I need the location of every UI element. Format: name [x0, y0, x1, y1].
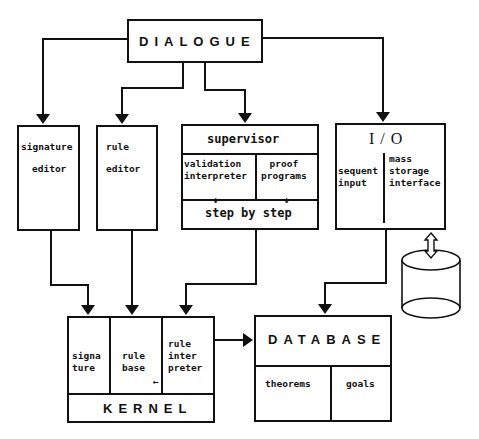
- rule-editor-line1: rule: [106, 141, 129, 153]
- edge-supervisor-kernel: [186, 229, 256, 306]
- kernel-rule-interpreter-label: rule inter preter: [168, 338, 202, 374]
- kernel-box: signa ture rule base rule inter preter ←…: [67, 316, 215, 423]
- arrowhead-icon: [243, 333, 253, 347]
- edge-dialogue-rule-editor: [122, 62, 183, 115]
- arrowhead-icon: [376, 112, 390, 122]
- kernel-signature-label: signa ture: [72, 350, 101, 374]
- arrowhead-icon: [238, 113, 252, 123]
- signature-editor-line1: signature: [21, 141, 72, 153]
- io-title: I / O: [369, 130, 403, 148]
- mass-storage-interface-label: mass storage interface: [389, 153, 440, 189]
- kernel-divider-2: [161, 318, 163, 393]
- proof-programs-label: proof programs: [261, 158, 307, 182]
- database-row-divider: [256, 365, 390, 367]
- kernel-divider-1: [109, 318, 111, 393]
- edge-dialogue-io: [262, 38, 383, 113]
- edge-dialogue-supervisor: [205, 62, 245, 114]
- dialogue-label: DIALOGUE: [139, 34, 256, 49]
- arrowhead-icon: [125, 305, 139, 315]
- disk-cylinder-icon: [402, 250, 460, 318]
- arrowhead-icon: [81, 305, 95, 315]
- step-divider: [183, 199, 317, 201]
- dialogue-box: DIALOGUE: [127, 19, 263, 63]
- rule-editor-line2: editor: [106, 163, 140, 175]
- kernel-row-divider: [69, 393, 213, 395]
- signature-editor-box: signature editor: [17, 125, 80, 231]
- database-title: DATABASE: [268, 332, 386, 347]
- database-box: DATABASE theorems goals: [254, 315, 392, 422]
- rule-editor-box: rule editor: [96, 125, 158, 231]
- kernel-rule-base-label: rule base: [122, 350, 145, 374]
- goals-label: goals: [346, 378, 375, 390]
- supervisor-divider: [183, 153, 317, 155]
- io-column-divider: [383, 153, 385, 223]
- io-box: I / O sequent input mass storage interfa…: [335, 123, 446, 230]
- validation-interpreter-label: validation interpreter: [184, 158, 247, 182]
- theorems-label: theorems: [265, 378, 311, 390]
- small-down-arrow-icon: ↓: [284, 194, 290, 206]
- edge-io-database: [325, 229, 386, 305]
- supervisor-column-divider: [255, 153, 257, 199]
- supervisor-box: supervisor validation interpreter proof …: [181, 124, 319, 230]
- kernel-title: KERNEL: [103, 401, 192, 416]
- arrowhead-icon: [115, 114, 129, 124]
- signature-editor-line2: editor: [32, 163, 66, 175]
- small-down-arrow-icon: ↓: [213, 194, 219, 206]
- arrowhead-icon: [318, 304, 332, 314]
- arrowhead-icon: [36, 114, 50, 124]
- step-by-step-label: step by step: [205, 206, 292, 220]
- small-left-arrow-icon: ←: [153, 376, 159, 388]
- arrowhead-icon: [179, 305, 193, 315]
- supervisor-title: supervisor: [207, 132, 279, 146]
- database-column-divider: [330, 365, 332, 420]
- edge-signature-editor-kernel: [51, 230, 88, 306]
- edge-dialogue-signature-editor: [43, 39, 127, 115]
- sequent-input-label: sequent input: [338, 165, 378, 189]
